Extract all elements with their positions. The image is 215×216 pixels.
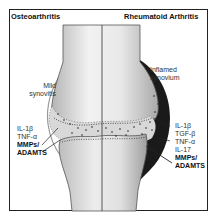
- left-mediator-il1b: IL-1β: [17, 125, 33, 133]
- right-mediator-tnfa: TNF-α: [175, 138, 195, 146]
- right-mediator-mmps: MMPs/: [175, 154, 197, 162]
- right-mediator-il1b: IL-1β: [175, 122, 191, 130]
- pointer-il1b-left: [42, 128, 58, 145]
- right-mediator-tgfb: TGF-β: [175, 130, 195, 138]
- lower-bone: [59, 134, 147, 211]
- left-mediator-adamts: ADAMTS: [17, 149, 47, 157]
- left-mediator-mmps: MMPs/: [17, 141, 39, 149]
- title-osteoarthritis: Osteoarthritis: [11, 12, 60, 21]
- left-mediator-tnfa: TNF-α: [17, 133, 37, 141]
- right-mediator-il17: IL-17: [175, 146, 191, 154]
- title-rheumatoid-arthritis: Rheumatoid Arthritis: [124, 12, 198, 21]
- label-inflamed: Inflamed: [150, 66, 177, 74]
- label-synovitis: synovitis: [22, 90, 56, 98]
- joint-illustration: [0, 0, 215, 216]
- right-mediator-adamts: ADAMTS: [175, 162, 205, 170]
- upper-bone: [52, 25, 159, 128]
- label-mild: Mild: [36, 82, 56, 90]
- label-synovium: synovium: [150, 74, 180, 82]
